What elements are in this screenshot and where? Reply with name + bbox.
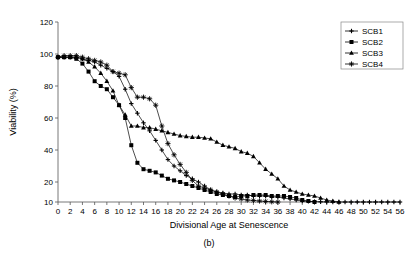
marker-cross [154,138,158,142]
marker-cross [398,200,402,204]
marker-star [123,72,128,77]
marker-square [288,195,292,199]
marker-star [208,187,213,192]
x-tick-label: 24 [200,207,209,216]
y-tick-label: 100 [40,50,54,59]
marker-star [80,55,85,60]
x-tick-label: 40 [298,207,307,216]
marker-square [148,169,152,173]
marker-square [251,193,255,197]
x-tick-label: 4 [80,207,85,216]
y-axis-title: Viability (%) [8,88,18,135]
x-tick-label: 54 [383,207,392,216]
marker-square [264,193,268,197]
marker-triangle [135,123,140,127]
marker-star [257,198,262,203]
marker-square [111,95,115,99]
x-tick-label: 30 [237,207,246,216]
x-tick-label: 12 [127,207,136,216]
marker-square [282,194,286,198]
legend-label-scb1: SCB1 [362,27,383,36]
x-tick-label: 50 [359,207,368,216]
series-scb1 [56,55,402,204]
marker-square [350,40,354,44]
marker-cross [392,200,396,204]
marker-triangle [220,143,225,147]
marker-square [270,194,274,198]
marker-triangle [147,125,152,129]
marker-star [68,53,73,58]
marker-star [349,61,354,66]
marker-square [87,70,91,74]
legend-label-scb4: SCB4 [362,60,383,69]
marker-star [233,195,238,200]
figure-container: 1020406080100120024681012141618202224262… [0,0,418,259]
marker-square [93,79,97,83]
marker-square [178,180,182,184]
marker-square [105,87,109,91]
x-tick-label: 14 [139,207,148,216]
marker-star [92,58,97,63]
marker-triangle [214,139,219,143]
marker-square [294,196,298,200]
x-tick-label: 28 [225,207,234,216]
marker-square [160,174,164,178]
marker-triangle [269,171,274,175]
marker-star [239,196,244,201]
x-axis-title: Divisional Age at Senescence [170,220,289,230]
x-tick-label: 0 [56,207,61,216]
marker-star [116,71,121,76]
marker-cross [355,200,359,204]
x-tick-label: 20 [176,207,185,216]
marker-star [153,103,158,108]
marker-star [74,53,79,58]
marker-cross [129,101,133,105]
marker-square [172,178,176,182]
x-tick-label: 32 [249,207,258,216]
marker-triangle [92,64,97,68]
marker-star [98,59,103,64]
x-tick-label: 6 [92,207,97,216]
marker-triangle [111,88,116,92]
marker-square [142,167,146,171]
marker-cross [373,200,377,204]
x-tick-label: 2 [68,207,73,216]
y-tick-label: 20 [44,178,53,187]
marker-star [226,193,231,198]
marker-square [166,177,170,181]
marker-cross [135,111,139,115]
marker-star [104,63,109,68]
x-tick-label: 22 [188,207,197,216]
marker-square [135,161,139,165]
marker-star [86,56,91,61]
marker-cross [343,200,347,204]
figure-caption: (b) [0,238,418,248]
marker-star [184,170,189,175]
marker-cross [349,200,353,204]
marker-square [154,170,158,174]
caption-text: (b) [204,238,215,248]
x-tick-label: 10 [115,207,124,216]
marker-star [159,123,164,128]
legend-label-scb3: SCB3 [362,49,383,58]
marker-triangle [275,176,280,180]
marker-square [300,198,304,202]
marker-square [276,194,280,198]
marker-star [147,96,152,101]
y-tick-label: 80 [44,82,53,91]
x-tick-label: 38 [286,207,295,216]
marker-star [220,191,225,196]
marker-triangle [239,149,244,153]
y-tick-label: 40 [44,146,53,155]
marker-square [99,84,103,88]
x-tick-label: 26 [212,207,221,216]
marker-cross [318,200,322,204]
marker-square [258,193,262,197]
marker-square [184,182,188,186]
line-chart: 1020406080100120024681012141618202224262… [0,0,418,259]
x-tick-label: 56 [396,207,405,216]
x-tick-label: 36 [273,207,282,216]
marker-star [178,162,183,167]
marker-square [129,143,133,147]
x-tick-label: 18 [163,207,172,216]
